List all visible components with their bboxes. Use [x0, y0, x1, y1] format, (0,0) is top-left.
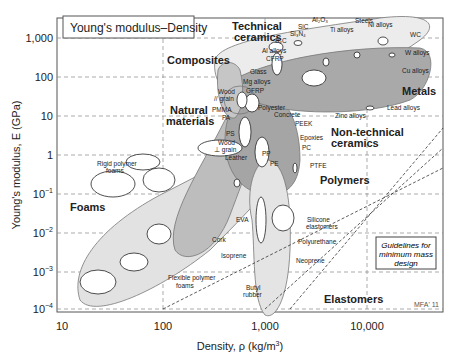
svg-text:Epoxies: Epoxies [300, 134, 324, 142]
svg-text:rubber: rubber [243, 291, 263, 298]
svg-text:Concrete: Concrete [274, 111, 301, 118]
svg-text:EVA: EVA [236, 216, 249, 223]
svg-text:10: 10 [41, 110, 53, 122]
svg-text:elastomers: elastomers [306, 223, 339, 230]
svg-text:1,000: 1,000 [25, 32, 53, 44]
svg-text:Foams: Foams [70, 201, 105, 213]
y-axis-title: Young's modulus, E (GPa) [10, 101, 22, 230]
svg-text:PMMA: PMMA [212, 106, 232, 113]
svg-text:100: 100 [154, 320, 172, 332]
svg-text:Lead alloys: Lead alloys [387, 104, 421, 112]
svg-text:materials: materials [166, 115, 214, 127]
svg-text:Polyurethane: Polyurethane [298, 238, 337, 246]
svg-text:Si₃N₄: Si₃N₄ [290, 30, 306, 37]
svg-text:foams: foams [106, 167, 124, 174]
svg-text:Metals: Metals [402, 85, 436, 97]
svg-text:Cork: Cork [212, 236, 226, 243]
svg-text:// grain: // grain [214, 95, 234, 103]
svg-text:10: 10 [56, 320, 68, 332]
svg-text:Wood: Wood [218, 139, 235, 146]
svg-text:1: 1 [47, 149, 53, 161]
svg-text:10−4: 10−4 [33, 302, 53, 315]
chart-title: Young's modulus–Density [70, 21, 207, 35]
svg-text:Polyester: Polyester [258, 104, 286, 112]
svg-text:Zinc alloys: Zinc alloys [335, 112, 366, 120]
svg-text:SiC: SiC [298, 23, 309, 30]
svg-text:W alloys: W alloys [405, 49, 430, 57]
svg-text:Composites: Composites [167, 54, 230, 66]
svg-text:1,000: 1,000 [251, 320, 279, 332]
svg-text:GFRP: GFRP [246, 87, 264, 94]
ashby-chart: Young's modulus–Density Guidelines for m… [0, 0, 452, 362]
svg-text:PE: PE [270, 160, 279, 167]
guidelines-text-3: design [394, 259, 418, 268]
svg-text:CFRP: CFRP [266, 55, 284, 62]
svg-text:PC: PC [302, 144, 311, 151]
svg-text:foams: foams [176, 282, 194, 289]
svg-text:Neoprene: Neoprene [296, 257, 325, 265]
svg-text:Leather: Leather [225, 154, 248, 161]
svg-text:Mg alloys: Mg alloys [243, 78, 271, 86]
svg-text:WC: WC [410, 31, 421, 38]
svg-text:⊥ grain: ⊥ grain [214, 146, 237, 154]
svg-text:ceramics: ceramics [331, 137, 379, 149]
svg-text:Al alloys: Al alloys [262, 47, 287, 55]
svg-text:PP: PP [262, 150, 271, 157]
svg-text:Flexible polymer: Flexible polymer [168, 274, 216, 282]
x-axis-title: Density, ρ (kg/m3) [197, 340, 283, 352]
svg-text:100: 100 [35, 71, 53, 83]
svg-text:Cu alloys: Cu alloys [402, 67, 429, 75]
svg-text:10−1: 10−1 [33, 187, 53, 200]
svg-text:Elastomers: Elastomers [324, 293, 383, 305]
svg-text:10−3: 10−3 [33, 265, 53, 278]
svg-text:Silicone: Silicone [307, 216, 330, 223]
x-tick-labels: 10 100 1,000 10,000 [56, 320, 384, 332]
svg-text:PS: PS [226, 130, 235, 137]
svg-text:Glass: Glass [250, 68, 267, 75]
svg-text:B₄C: B₄C [275, 37, 287, 44]
svg-text:Ti alloys: Ti alloys [330, 26, 354, 34]
svg-text:PEEK: PEEK [295, 120, 313, 127]
credit: MFA' 11 [414, 301, 439, 308]
y-tick-labels: 1,000 100 10 1 10−1 10−2 10−3 10−4 [25, 32, 53, 315]
svg-text:10,000: 10,000 [350, 320, 384, 332]
guidelines-text-1: Guidelines for [381, 241, 431, 250]
svg-text:Ni alloys: Ni alloys [368, 21, 393, 29]
svg-text:Isoprene: Isoprene [221, 252, 247, 260]
svg-text:10−2: 10−2 [33, 226, 53, 239]
svg-text:PTFE: PTFE [310, 162, 327, 169]
svg-text:Al₂O₃: Al₂O₃ [312, 16, 328, 23]
svg-text:Wood: Wood [218, 88, 235, 95]
svg-text:Polymers: Polymers [320, 174, 370, 186]
svg-text:PA: PA [222, 114, 231, 121]
guidelines-text-2: minimum mass [379, 250, 433, 259]
